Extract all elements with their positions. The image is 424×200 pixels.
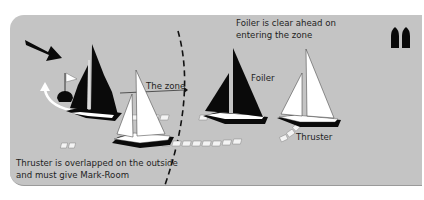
thruster-boat xyxy=(277,49,341,127)
note-line-1: Foiler is clear ahead on xyxy=(236,17,336,29)
wind-arrow-icon xyxy=(25,40,62,61)
thruster-label: Thruster xyxy=(296,131,332,143)
note-line-2: entering the zone xyxy=(236,29,336,41)
foiler-boat xyxy=(203,48,268,124)
thruster-overlap-note: Thruster is overlapped on the outside an… xyxy=(16,157,178,181)
wake-trail-lower xyxy=(60,123,301,148)
boat-symbols-icon xyxy=(391,27,410,48)
note-line-2: and must give Mark-Room xyxy=(16,169,178,181)
foiler-clear-ahead-note: Foiler is clear ahead on entering the zo… xyxy=(236,17,336,41)
zone-label: The zone xyxy=(146,80,185,92)
foiler-boat-at-mark xyxy=(66,44,122,121)
foiler-label: Foiler xyxy=(251,72,275,84)
note-line-1: Thruster is overlapped on the outside xyxy=(16,157,178,169)
